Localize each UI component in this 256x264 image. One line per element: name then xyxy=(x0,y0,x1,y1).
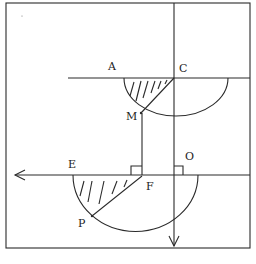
label-P: P xyxy=(78,217,86,230)
label-M: M xyxy=(126,110,137,123)
point-P xyxy=(91,215,93,217)
geometry-diagram: A C M E F O P xyxy=(0,0,256,264)
segment-CM xyxy=(141,78,174,113)
right-angle-marker-F xyxy=(131,166,142,175)
point-M xyxy=(140,112,142,114)
outer-frame xyxy=(6,3,250,248)
label-F: F xyxy=(146,180,154,193)
stray-dot xyxy=(21,15,22,16)
label-C: C xyxy=(179,62,187,75)
label-O: O xyxy=(185,150,194,163)
right-angle-marker-O xyxy=(174,166,183,175)
lower-hatching xyxy=(80,180,127,204)
label-A: A xyxy=(107,60,117,73)
upper-hatching xyxy=(130,80,167,101)
label-E: E xyxy=(68,158,76,171)
upper-semicircle xyxy=(124,78,228,116)
